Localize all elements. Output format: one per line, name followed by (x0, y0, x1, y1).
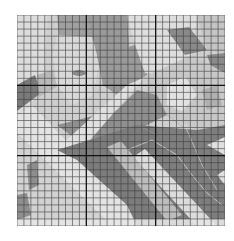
shade-region (27, 160, 39, 190)
pattern-image (17, 15, 225, 226)
shade-region (72, 70, 86, 76)
cross-stitch-pattern (17, 15, 225, 226)
